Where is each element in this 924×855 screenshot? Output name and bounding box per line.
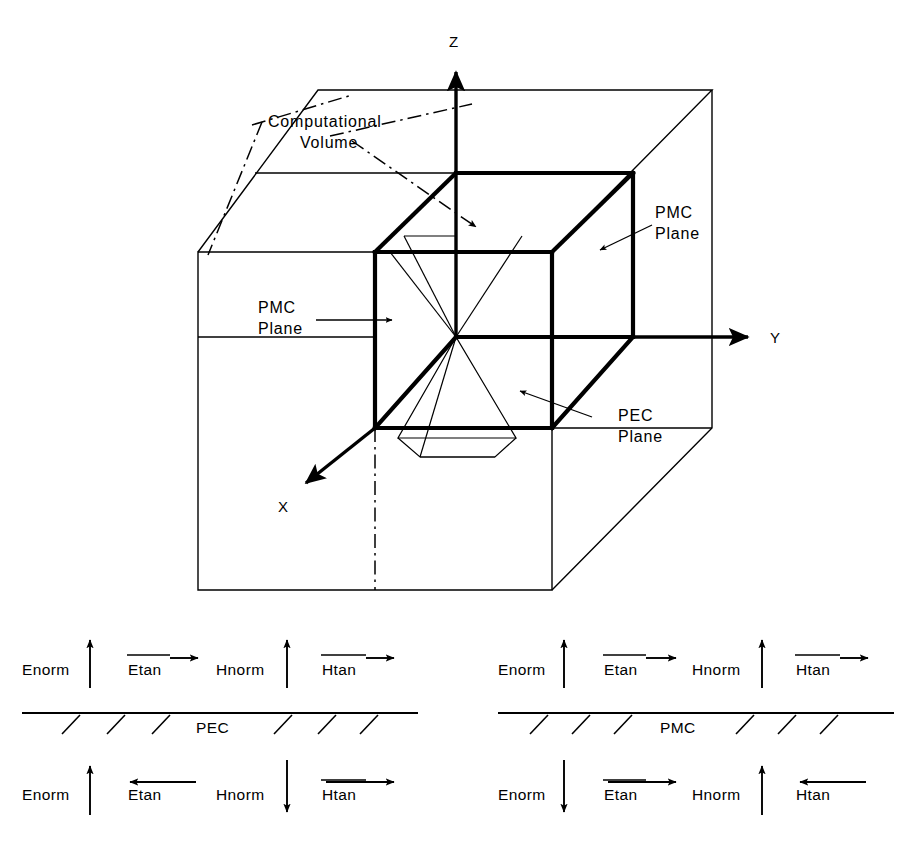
pmc-below-htan-label: Htan [796, 786, 830, 803]
pec-boundary-panel: PEC Enorm Etan Hnorm Htan Enorm Etan Hno… [22, 640, 418, 815]
pmc-above-hnorm-label: Hnorm [692, 661, 741, 678]
pec-below-enorm-label: Enorm [22, 786, 70, 803]
pec-above-htan-label: Htan [322, 661, 356, 678]
pec-below-htan-label: Htan [322, 786, 356, 803]
pec-surface-label: PEC [196, 719, 229, 736]
pec-below-hnorm-label: Hnorm [216, 786, 265, 803]
pmc-above-htan-label: Htan [796, 661, 830, 678]
figure-root: Z Y X Computational Volume PMC Plane PMC… [0, 0, 924, 855]
pmc-boundary-panel: PMC Enorm Etan Hnorm Htan Enorm Etan Hno… [498, 640, 894, 815]
pmc-surface-label: PMC [660, 719, 696, 736]
boundary-condition-layer: PEC Enorm Etan Hnorm Htan Enorm Etan Hno… [0, 0, 924, 855]
pmc-below-hnorm-label: Hnorm [692, 786, 741, 803]
pmc-below-etan-label: Etan [604, 786, 638, 803]
pmc-below-enorm-label: Enorm [498, 786, 546, 803]
pec-below-etan-label: Etan [128, 786, 162, 803]
pmc-above-etan-label: Etan [604, 661, 638, 678]
pec-above-hnorm-label: Hnorm [216, 661, 265, 678]
pmc-above-enorm-label: Enorm [498, 661, 546, 678]
pec-above-enorm-label: Enorm [22, 661, 70, 678]
pec-above-etan-label: Etan [128, 661, 162, 678]
